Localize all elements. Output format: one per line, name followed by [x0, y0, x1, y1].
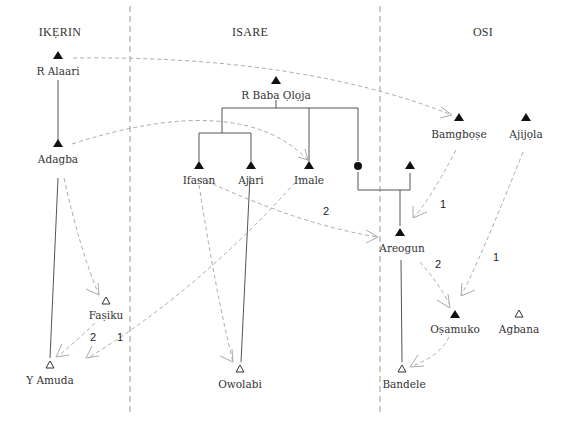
node-label: Y Amuda	[25, 374, 74, 386]
line-marriage-bar	[358, 172, 410, 190]
node-ajari: Ajari	[237, 161, 264, 186]
open-triangle-icon	[515, 310, 523, 317]
node-bandele: Bandele	[382, 365, 425, 390]
filled-triangle-icon	[304, 161, 314, 169]
filled-triangle-icon	[395, 228, 405, 236]
edge-label-bamgbose-areogun: 1	[440, 198, 446, 210]
open-triangle-icon	[398, 365, 406, 372]
filled-triangle-icon	[271, 76, 281, 84]
arrow-adagba-imale	[72, 120, 308, 160]
node-owolabi: Owolabi	[218, 365, 262, 390]
node-ifasan: Ifasan	[183, 161, 216, 186]
arrow-osamuko-bandele	[412, 337, 449, 366]
filled-triangle-icon	[246, 161, 256, 169]
edge-label-fasiku-amuda: 2	[90, 331, 96, 343]
edge-label-areogun-osamuko: 2	[435, 258, 441, 270]
node-label: Oṣamuko	[430, 323, 480, 335]
node-label: Ifasan	[183, 174, 216, 186]
arrowhead	[410, 355, 424, 367]
arrow-bamgbose-areogun	[413, 150, 456, 218]
node-label: Agbana	[498, 323, 539, 335]
filled-triangle-icon	[521, 113, 531, 121]
arrow-ajijola-osamuko	[461, 152, 523, 296]
node-y-amuda: Y Amuda	[25, 361, 74, 386]
line-ifasan-ajari-bar	[199, 133, 251, 161]
kinship-diagram: IKẸRIN ISARE OSI	[0, 0, 572, 438]
open-triangle-icon	[46, 361, 54, 368]
edge-label-imale-amuda: 1	[117, 331, 123, 343]
open-triangle-icon	[236, 365, 244, 372]
node-fasiku: Faṣiku	[89, 297, 124, 321]
column-header-isare: ISARE	[232, 25, 268, 39]
node-spouse	[405, 161, 415, 169]
node-label: Areogun	[378, 242, 425, 254]
node-label: Ajijọla	[508, 128, 542, 140]
node-label: Faṣiku	[89, 309, 124, 321]
arrowhead	[461, 283, 475, 296]
arrow-ifasan-areogun	[200, 178, 378, 237]
filled-triangle-icon	[53, 51, 63, 59]
node-label: R Baba Ọlọja	[241, 89, 310, 101]
filled-triangle-icon	[194, 161, 204, 169]
arrowhead	[220, 349, 233, 362]
node-label: Adagba	[37, 153, 78, 165]
node-r-alaari: R Alaari	[36, 51, 80, 77]
node-label: R Alaari	[36, 65, 80, 77]
filled-triangle-icon	[454, 113, 464, 121]
line-adagba-amuda	[50, 178, 58, 358]
node-agbana: Agbana	[498, 310, 539, 335]
node-label: Bamgbọṣe	[431, 128, 486, 140]
node-imale: Imale	[294, 161, 324, 186]
edge-label-ajijola-osamuko: 1	[493, 251, 499, 263]
column-header-ikerin: IKẸRIN	[39, 25, 81, 39]
line-oloja-bar	[222, 108, 358, 161]
node-osamuko: Oṣamuko	[430, 310, 480, 335]
filled-triangle-icon	[405, 161, 415, 169]
line-areogun-bandele	[401, 260, 402, 362]
edge-label-ifasan-areogun: 2	[323, 205, 329, 217]
node-label: Ajari	[237, 174, 264, 186]
node-female	[354, 162, 362, 170]
filled-triangle-icon	[53, 139, 63, 147]
node-label: Bandele	[382, 378, 425, 390]
filled-triangle-icon	[450, 310, 460, 318]
line-ajari-owolabi	[241, 176, 250, 362]
column-header-osi: OSI	[473, 25, 493, 39]
node-adagba: Adagba	[37, 139, 78, 165]
arrow-adagba-fasiku	[64, 178, 99, 295]
arrowhead	[56, 344, 69, 357]
node-ajijola: Ajijọla	[508, 113, 542, 140]
arrowhead	[437, 294, 450, 308]
influence-arrows	[56, 58, 523, 367]
arrow-ifasan-owolabi	[198, 178, 233, 362]
node-r-baba-oloja: R Baba Ọlọja	[241, 76, 310, 101]
node-label: Imale	[294, 174, 324, 186]
node-bamgbose: Bamgbọṣe	[431, 113, 486, 140]
node-areogun: Areogun	[378, 228, 425, 254]
filled-circle-icon	[354, 162, 362, 170]
node-label: Owolabi	[218, 378, 262, 390]
open-triangle-icon	[102, 297, 110, 304]
